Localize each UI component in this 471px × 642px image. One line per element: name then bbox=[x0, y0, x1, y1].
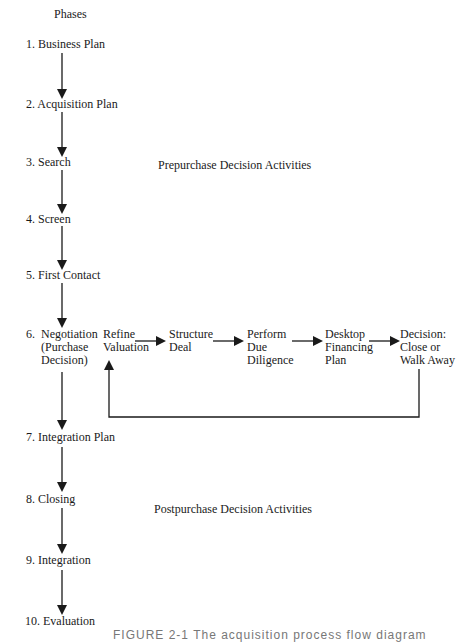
prepurchase-section-label: Prepurchase Decision Activities bbox=[158, 159, 311, 172]
step-perform-due-diligence: Perform Due Diligence bbox=[247, 328, 294, 367]
phase-1: 1. Business Plan bbox=[26, 38, 105, 51]
phase-7: 7. Integration Plan bbox=[26, 431, 115, 444]
feedback-loop-arrow bbox=[109, 365, 419, 417]
step-refine-valuation: Refine Valuation bbox=[103, 328, 149, 354]
phase-10: 10. Evaluation bbox=[25, 615, 95, 628]
phase-4: 4. Screen bbox=[26, 213, 71, 226]
phase-8: 8. Closing bbox=[26, 493, 75, 506]
postpurchase-section-label: Postpurchase Decision Activities bbox=[154, 503, 312, 516]
figure-caption: FIGURE 2-1 The acquisition process flow … bbox=[113, 628, 427, 642]
phase-9: 9. Integration bbox=[26, 554, 91, 567]
phase-5: 5. First Contact bbox=[26, 269, 100, 282]
phase-6-negotiation: 6. Negotiation (Purchase Decision) bbox=[26, 328, 98, 367]
phase-3: 3. Search bbox=[26, 156, 71, 169]
step-desktop-financing-plan: Desktop Financing Plan bbox=[325, 328, 373, 367]
step-structure-deal: Structure Deal bbox=[169, 328, 213, 354]
step-decision-close-or-walk-away: Decision: Close or Walk Away bbox=[400, 328, 455, 367]
phases-heading: Phases bbox=[54, 8, 87, 21]
phase-2: 2. Acquisition Plan bbox=[26, 98, 118, 111]
